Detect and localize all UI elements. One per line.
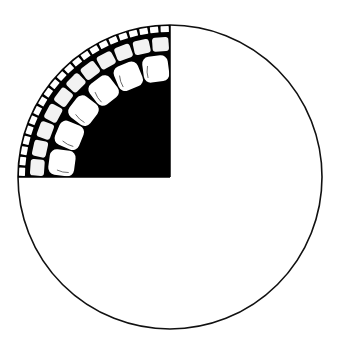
cutaway-circle-figure bbox=[0, 0, 341, 360]
middle-rounded-cell bbox=[152, 37, 169, 52]
outer-small-cell bbox=[160, 26, 168, 32]
inner-large-cell bbox=[47, 148, 76, 177]
diagram-canvas bbox=[0, 0, 341, 360]
middle-rounded-cell bbox=[30, 159, 45, 176]
outer-small-cell bbox=[19, 157, 26, 166]
outer-small-cell bbox=[19, 167, 25, 175]
inner-large-cell bbox=[141, 54, 170, 83]
outer-small-cell bbox=[150, 26, 159, 33]
